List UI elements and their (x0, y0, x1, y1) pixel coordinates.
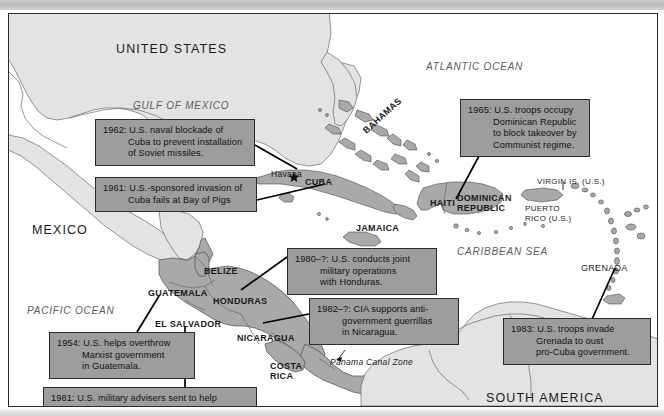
callout-1962-cuba-blockade-line-3: of Soviet missiles. (103, 148, 247, 160)
callout-1982-nicaragua-line-1: 1982–?: CIA supports anti- (317, 304, 451, 316)
callout-1983-grenada[interactable]: 1983: U.S. troops invadeGrenada to oustp… (503, 318, 651, 365)
map-frame: .lt { fill:#e3e3e3; stroke:#6a6a6a; stro… (8, 13, 658, 407)
callout-1982-nicaragua-line-2: government guerrillas (317, 316, 451, 328)
callout-1962-cuba-blockade-line-2: Cuba to prevent installation (103, 137, 247, 149)
callout-1954-guatemala-line-2: Marxist government (57, 350, 187, 362)
callout-1981-el-salvador-line-2: government of El Salvador. (51, 405, 249, 407)
callout-1965-dominican-republic-line-3: to block takeover by (468, 128, 582, 140)
callout-1981-el-salvador-line-1: 1981: U.S. military advisers sent to hel… (51, 393, 249, 405)
callout-1980-honduras-line-1: 1980–?: U.S. conducts joint (295, 254, 429, 266)
bottom-gray-band (0, 408, 664, 416)
callout-1962-cuba-blockade[interactable]: 1962: U.S. naval blockade ofCuba to prev… (95, 119, 255, 166)
callout-1961-bay-of-pigs[interactable]: 1961: U.S.-sponsored invasion ofCuba fai… (95, 177, 257, 212)
callout-1983-grenada-line-2: Grenada to oust (511, 336, 643, 348)
callout-1983-grenada-line-3: pro-Cuba government. (511, 347, 643, 359)
callout-1980-honduras-line-2: military operations (295, 266, 429, 278)
callout-1982-nicaragua-line-3: in Nicaragua. (317, 327, 451, 339)
leader-1954 (137, 296, 159, 332)
callout-1954-guatemala-line-3: in Guatemala. (57, 361, 187, 373)
top-gray-band (0, 0, 664, 10)
callout-1980-honduras[interactable]: 1980–?: U.S. conducts jointmilitary oper… (287, 248, 437, 295)
callout-1965-dominican-republic[interactable]: 1965: U.S. troops occupyDominican Republ… (460, 99, 590, 157)
callout-1954-guatemala-line-1: 1954: U.S. helps overthrow (57, 338, 187, 350)
map-page: .lt { fill:#e3e3e3; stroke:#6a6a6a; stro… (0, 0, 664, 416)
callout-1961-bay-of-pigs-line-1: 1961: U.S.-sponsored invasion of (103, 183, 249, 195)
callout-1965-dominican-republic-line-2: Dominican Republic (468, 117, 582, 129)
callout-1954-guatemala[interactable]: 1954: U.S. helps overthrowMarxist govern… (49, 332, 195, 379)
callout-1980-honduras-line-3: with Honduras. (295, 277, 429, 289)
callout-1961-bay-of-pigs-line-2: Cuba fails at Bay of Pigs (103, 195, 249, 207)
callout-1982-nicaragua[interactable]: 1982–?: CIA supports anti-government gue… (309, 298, 459, 345)
callout-1981-el-salvador[interactable]: 1981: U.S. military advisers sent to hel… (43, 387, 257, 407)
callout-1962-cuba-blockade-line-1: 1962: U.S. naval blockade of (103, 125, 247, 137)
callout-1965-dominican-republic-line-4: Communist regime. (468, 140, 582, 152)
callout-1983-grenada-line-1: 1983: U.S. troops invade (511, 324, 643, 336)
callout-1965-dominican-republic-line-1: 1965: U.S. troops occupy (468, 105, 582, 117)
